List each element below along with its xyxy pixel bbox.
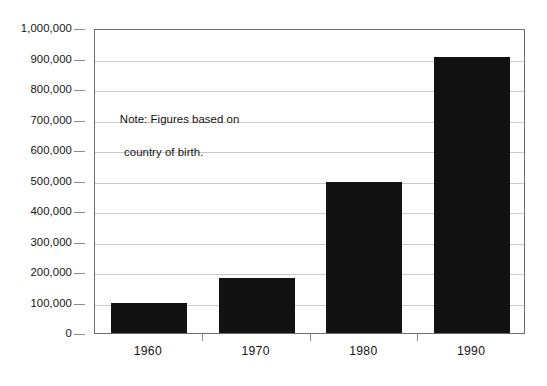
chart-note: Note: Figures based on country of birth. <box>107 94 239 193</box>
x-tick-mark <box>202 334 203 341</box>
x-tick-label-1960: 1960 <box>134 344 162 358</box>
x-tick-label-1980: 1980 <box>349 344 377 358</box>
x-tick-mark <box>417 334 418 341</box>
chart-note-line-1: Note: Figures based on <box>120 113 240 125</box>
chart-note-line-2: country of birth. <box>107 144 239 161</box>
bar-chart-figure: 0100,000200,000300,000400,000500,000600,… <box>0 0 547 386</box>
x-tick-label-1970: 1970 <box>241 344 269 358</box>
x-tick-mark <box>310 334 311 341</box>
x-tick-label-1990: 1990 <box>457 344 485 358</box>
x-axis: 1960197019801990 <box>0 0 547 386</box>
